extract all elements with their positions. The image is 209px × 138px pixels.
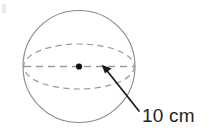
radius-measurement-label: 10 cm: [142, 105, 195, 127]
sphere-diagram-figure: 10 cm: [0, 0, 209, 138]
center-point-dot: [76, 63, 82, 69]
